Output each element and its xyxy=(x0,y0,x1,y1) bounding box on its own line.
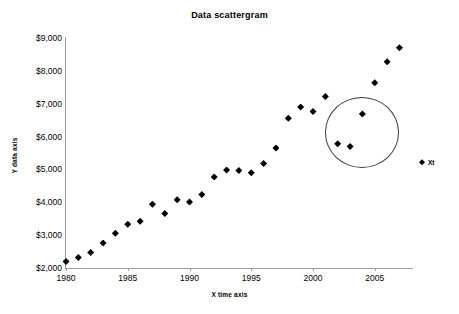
y-axis-title: Y data axis xyxy=(11,126,18,186)
x-axis-tick-mark xyxy=(251,268,252,271)
x-axis-tick-label: 1980 xyxy=(46,273,86,283)
outlier-highlight-circle xyxy=(325,97,399,167)
x-axis-tick-label: 2005 xyxy=(355,273,395,283)
x-axis-title: X time axis xyxy=(0,291,459,298)
chart-legend: Xt xyxy=(419,159,435,166)
x-axis-tick-label: 1995 xyxy=(231,273,271,283)
legend-series-label: Xt xyxy=(428,159,435,166)
x-axis-tick-mark xyxy=(190,268,191,271)
x-axis-tick-mark xyxy=(375,268,376,271)
x-axis-tick-mark xyxy=(313,268,314,271)
x-axis-tick-label: 1985 xyxy=(108,273,148,283)
x-axis-tick-mark xyxy=(66,268,67,271)
scatter-chart-figure: Data scattergram $2,000$3,000$4,000$5,00… xyxy=(0,0,459,314)
x-axis-tick-label: 1990 xyxy=(170,273,210,283)
diamond-marker-icon xyxy=(419,159,425,165)
x-axis-tick-label: 2000 xyxy=(293,273,333,283)
x-axis-tick-mark xyxy=(128,268,129,271)
